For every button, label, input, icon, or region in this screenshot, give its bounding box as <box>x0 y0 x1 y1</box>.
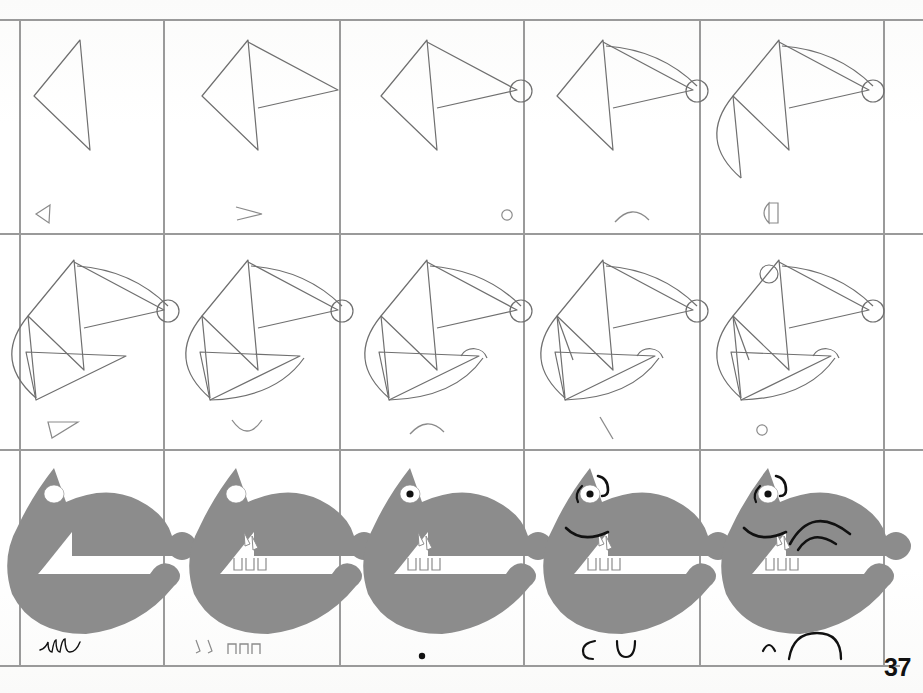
tutorial-cell-12 <box>189 468 379 654</box>
tutorial-cell-7 <box>186 260 353 431</box>
tutorial-cell-9 <box>541 260 708 439</box>
tutorial-cell-4 <box>557 40 708 222</box>
page-number: 37 <box>884 655 911 680</box>
tutorial-cell-15 <box>721 468 911 659</box>
tutorial-cell-5 <box>717 40 884 223</box>
tutorial-cell-3 <box>381 40 532 220</box>
tutorial-cell-8 <box>365 260 532 434</box>
tutorial-cell-14 <box>543 468 733 659</box>
tutorial-cell-6 <box>12 260 179 438</box>
tutorial-cell-13 <box>363 468 553 659</box>
tutorial-cell-1 <box>34 40 90 223</box>
scanned-page: 37 <box>0 0 923 693</box>
tutorial-artwork <box>0 0 923 693</box>
tutorial-cell-11 <box>7 468 197 652</box>
tutorial-cell-10 <box>717 260 884 435</box>
tutorial-cell-2 <box>202 40 338 220</box>
